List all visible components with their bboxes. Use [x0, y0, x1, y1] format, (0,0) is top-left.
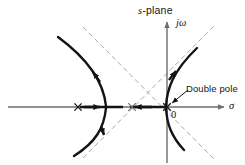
s-plane-label: s-plane: [138, 5, 173, 17]
origin-label: 0: [171, 110, 176, 121]
locus-branch-left-upper-arrow: [93, 72, 100, 82]
real-axis-label: σ: [229, 101, 234, 112]
imaginary-axis-label: jω: [176, 18, 186, 29]
double-pole-label: Double pole: [186, 84, 238, 94]
locus-branch-left-lower: [74, 108, 106, 156]
locus-branch-left-lower-path: [74, 108, 106, 156]
s-plane-label-suffix: -plane: [142, 4, 172, 16]
locus-branch-right-upper: [166, 48, 197, 106]
locus-branch-left-lower-arrow: [101, 126, 104, 135]
locus-branch-left-upper: [58, 37, 106, 106]
locus-branch-left-upper-path: [58, 37, 106, 106]
root-locus-figure: s-plane jω σ 0 Double pole: [0, 0, 245, 165]
